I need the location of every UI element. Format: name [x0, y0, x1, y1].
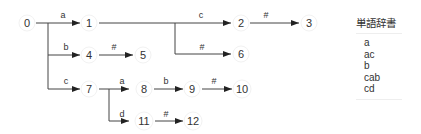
svg-text:0: 0 [24, 17, 30, 29]
edge-label-0-1: a [60, 10, 65, 20]
node-2: 2 [233, 15, 249, 31]
edge-label-0-7: c [64, 76, 69, 86]
node-1: 1 [81, 15, 97, 31]
dictionary-title: 単語辞書 [356, 15, 402, 34]
svg-text:5: 5 [140, 49, 146, 61]
node-11: 11 [135, 112, 153, 130]
node-5: 5 [135, 47, 151, 63]
svg-text:6: 6 [238, 48, 244, 60]
edge-label-8-9: b [163, 76, 168, 86]
dictionary-word: ac [364, 49, 402, 61]
edge-label-1-6: # [199, 42, 204, 52]
node-10: 10 [233, 80, 251, 98]
edge-label-1-2: c [199, 10, 204, 20]
svg-text:10: 10 [236, 83, 248, 95]
dictionary-word: a [364, 37, 402, 49]
node-4: 4 [81, 47, 97, 63]
node-0: 0 [19, 15, 35, 31]
svg-text:8: 8 [141, 83, 147, 95]
edge-label-7-11: d [119, 109, 124, 119]
svg-text:3: 3 [306, 17, 312, 29]
node-3: 3 [301, 15, 317, 31]
edge-label-2-3: # [263, 10, 268, 20]
svg-text:2: 2 [238, 17, 244, 29]
dictionary-word: cd [364, 83, 402, 95]
edge-label-0-4: b [63, 42, 68, 52]
node-7: 7 [81, 81, 97, 97]
svg-text:4: 4 [86, 49, 92, 61]
dictionary-word: cab [364, 72, 402, 84]
node-9: 9 [184, 81, 200, 97]
edge-label-4-5: # [111, 42, 116, 52]
edge-label-7-8: a [119, 76, 124, 86]
dictionary-word: b [364, 60, 402, 72]
dictionary-word-list: a ac b cab cd [356, 34, 402, 100]
node-6: 6 [233, 46, 249, 62]
svg-text:7: 7 [86, 83, 92, 95]
svg-text:9: 9 [189, 83, 195, 95]
edges: a b c c # # # a d b # # [36, 10, 299, 121]
svg-text:12: 12 [187, 115, 199, 127]
node-8: 8 [136, 81, 152, 97]
edge-label-11-12: # [163, 109, 168, 119]
node-12: 12 [184, 112, 202, 130]
svg-text:1: 1 [86, 17, 92, 29]
svg-text:11: 11 [138, 115, 149, 127]
edge-label-9-10: # [211, 76, 216, 86]
word-dictionary: 単語辞書 a ac b cab cd [356, 15, 402, 100]
